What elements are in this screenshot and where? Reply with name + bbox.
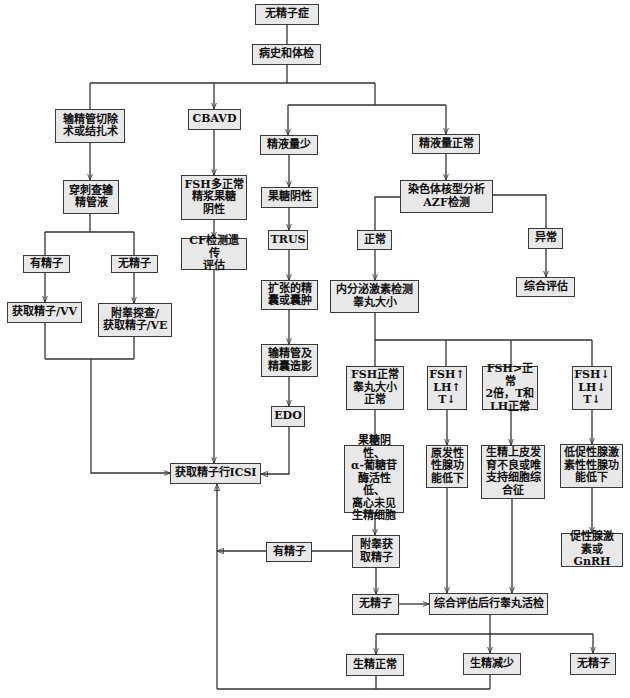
node-fsh-up-lh-up-t-down: FSH↑ LH↑ T↓: [427, 366, 467, 410]
connector-line: [376, 615, 593, 634]
node-sperm-absent-1: 无精子: [111, 255, 158, 273]
node-karyotype-normal: 正常: [357, 230, 392, 250]
node-comprehensive-eval: 综合评估: [516, 277, 575, 297]
node-seminiferous-sertoli: 生精上皮发 育不良或唯 支持细胞综 合征: [481, 445, 545, 499]
connector-line: [45, 214, 134, 255]
connector-line: [217, 675, 490, 689]
node-epididymal-retrieval: 附睾获 取精子: [352, 535, 400, 568]
node-endocrine-testis-size: 内分泌激素检测 睾丸大小: [330, 280, 419, 313]
node-karyotype-abnormal: 异常: [528, 228, 563, 249]
node-vas-puncture: 穿刺查输 精管液: [63, 180, 119, 214]
node-sperm-present-1: 有精子: [23, 255, 70, 273]
node-icsi: 获取精子行ICSI: [170, 463, 261, 484]
arrow-line: [261, 427, 289, 474]
node-sperm-absent-2: 无精子: [352, 594, 399, 615]
node-spermatogenesis-normal: 生精正常: [346, 654, 404, 676]
node-karyotype-azf: 染色体核型分析 AZF检测: [400, 180, 493, 213]
node-azoospermia: 无精子症: [255, 4, 319, 25]
node-spermatogenesis-reduced: 生精减少: [463, 653, 521, 675]
node-cbavd: CBAVD: [188, 109, 241, 130]
connector-line: [288, 83, 446, 105]
node-fsh-normal-fructose-negative: FSH多正常 精浆果糖 阴性: [181, 175, 247, 220]
node-fructose-negative: 果糖阴性: [261, 187, 318, 208]
node-cf-genetic-eval: CF检测遗传 评估: [181, 238, 247, 270]
node-ve: 附睾探查/ 获取精子/VE: [98, 303, 172, 337]
node-sperm-present-2: 有精子: [266, 542, 312, 562]
node-normal-semen-volume: 精液量正常: [412, 134, 480, 154]
node-vesiculography: 输精管及 精囊造影: [261, 344, 318, 377]
node-fructose-alpha-glucosidase: 果糖阴性、 α-葡糖苷 酶活性低、 离心未见 生精细胞: [344, 445, 404, 513]
node-fsh-2x-normal: FSH>正常 2倍，T和 LH正常: [482, 366, 538, 410]
node-primary-hypogonadism: 原发性 性腺功 能低下: [426, 445, 468, 488]
connector-line: [375, 313, 592, 366]
node-fsh-normal-testis-normal: FSH正常 睾丸大小 正常: [346, 366, 404, 410]
node-low-semen-volume: 精液量少: [260, 135, 318, 155]
node-hypogonadotropic-hypogonadism: 低促性腺激 素性性腺功 能低下: [560, 444, 623, 488]
connector-line: [493, 195, 546, 228]
node-vasectomy: 输精管切除 术或结扎术: [55, 109, 125, 143]
node-fsh-down-lh-down-t-down: FSH↓ LH↓ T↓: [572, 366, 612, 410]
connector-line: [90, 65, 375, 109]
node-gonadotropin-gnrh: 促性腺激 素或GnRH: [561, 533, 623, 567]
connector-line: [375, 197, 400, 230]
node-edo: EDO: [271, 406, 305, 427]
node-testis-biopsy: 综合评估后行睾丸活检: [429, 593, 548, 615]
arrow-line: [91, 359, 170, 473]
node-dilated-vesicle-cyst: 扩张的精 囊或囊肿: [261, 280, 318, 310]
node-sperm-absent-3: 无精子: [570, 653, 616, 675]
node-trus: TRUS: [268, 230, 308, 250]
azoospermia-flowchart: 无精子症 病史和体检 输精管切除 术或结扎术 CBAVD 精液量少 精液量正常 …: [0, 0, 630, 698]
node-vv: 获取精子/VV: [7, 302, 82, 323]
node-history-physical-exam: 病史和体检: [252, 44, 321, 65]
